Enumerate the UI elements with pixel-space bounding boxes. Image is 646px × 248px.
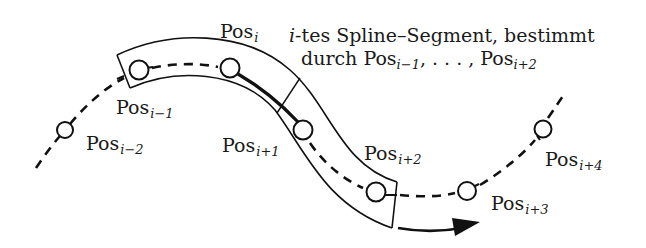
label-pos-i-plus-1: Posi+1 [222,136,280,155]
label-pos-i-plus-2: Posi+2 [364,144,422,163]
label-pos-i-plus-3: Posi+3 [491,194,549,213]
active-segment [238,74,298,122]
label-pos-i-plus-4: Posi+4 [545,150,603,169]
caption-line-1: i-tes Spline–Segment, bestimmt [289,24,595,47]
point-pos-i-plus-2[interactable] [367,183,386,202]
leader-line [277,78,300,113]
direction-arrow-icon [398,218,480,236]
point-pos-i-plus-4[interactable] [535,121,552,138]
label-pos-i-minus-2: Posi−2 [86,134,144,153]
control-points [57,59,552,202]
point-pos-i-plus-3[interactable] [458,182,476,200]
point-pos-i-minus-1[interactable] [130,61,149,80]
label-pos-i-minus-1: Posi−1 [116,98,174,117]
caption-line-2: durch Posi−1, . . . , Posi+2 [289,47,595,70]
segment-caption: i-tes Spline–Segment, bestimmt durch Pos… [289,24,595,70]
point-pos-i[interactable] [221,59,240,78]
connector-ticks [117,67,540,195]
point-pos-i-plus-1[interactable] [294,121,313,140]
point-pos-i-minus-2[interactable] [57,122,73,138]
label-pos-i: Posi [220,22,258,41]
